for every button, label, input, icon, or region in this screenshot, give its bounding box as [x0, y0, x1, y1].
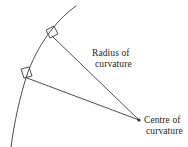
- centre-label-line-1: Centre of: [144, 115, 183, 126]
- radius-label-line-1: Radius of: [92, 48, 132, 59]
- radius-of-curvature-label: Radius of curvature: [92, 48, 132, 69]
- centre-of-curvature-point: [137, 118, 140, 121]
- centre-of-curvature-label: Centre of curvature: [144, 115, 183, 136]
- radius-line-lower: [27, 78, 139, 120]
- radius-of-curvature-diagram: Radius of curvature Centre of curvature: [0, 0, 188, 147]
- curved-surface-arc: [11, 6, 76, 147]
- centre-label-line-2: curvature: [144, 126, 183, 137]
- radius-label-line-2: curvature: [92, 59, 132, 70]
